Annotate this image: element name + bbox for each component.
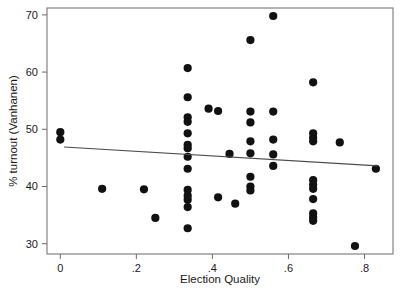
y-tick-label: 50 [26,123,38,135]
x-tick-label: 0 [57,262,63,274]
scatter-point [309,217,317,225]
plot-frame [47,8,393,254]
chart-canvas: 3040506070 0.2.4.6.8 Election Quality % … [0,0,402,295]
scatter-point [184,224,192,232]
scatter-point [246,36,254,44]
scatter-point [56,135,64,143]
scatter-point [336,138,344,146]
y-axis-title: % turnout (Vanhanen) [7,75,19,187]
scatter-point [184,165,192,173]
scatter-point [98,185,106,193]
scatter-point [184,196,192,204]
scatter-point [231,200,239,208]
regression-line [64,147,378,166]
y-axis-ticks [42,15,47,244]
y-tick-label: 70 [26,9,38,21]
scatter-point [246,186,254,194]
scatter-point [184,144,192,152]
x-tick-label: .6 [284,262,293,274]
scatter-point [214,107,222,115]
scatter-point [309,185,317,193]
scatter-point [246,173,254,181]
scatter-plot-figure: 3040506070 0.2.4.6.8 Election Quality % … [0,0,402,295]
scatter-point [309,137,317,145]
scatter-point [204,105,212,113]
scatter-point [269,135,277,143]
scatter-point [56,128,64,136]
scatter-point [269,150,277,158]
scatter-point [214,193,222,201]
scatter-point [309,195,317,203]
y-axis-tick-labels: 3040506070 [26,9,38,250]
x-axis-title: Election Quality [180,273,260,285]
data-points [56,12,380,250]
x-tick-label: .8 [360,262,369,274]
scatter-point [309,78,317,86]
scatter-point [246,107,254,115]
scatter-point [351,242,359,250]
x-axis-ticks [60,254,364,259]
scatter-point [269,12,277,20]
scatter-point [184,129,192,137]
scatter-point [246,137,254,145]
scatter-point [184,118,192,126]
y-tick-label: 60 [26,66,38,78]
y-tick-label: 40 [26,180,38,192]
scatter-point [246,149,254,157]
y-tick-label: 30 [26,238,38,250]
x-tick-label: .2 [132,262,141,274]
scatter-point [269,107,277,115]
scatter-point [140,185,148,193]
scatter-point [184,64,192,72]
scatter-point [269,162,277,170]
scatter-point [151,214,159,222]
scatter-point [246,118,254,126]
scatter-point [184,93,192,101]
scatter-point [184,203,192,211]
